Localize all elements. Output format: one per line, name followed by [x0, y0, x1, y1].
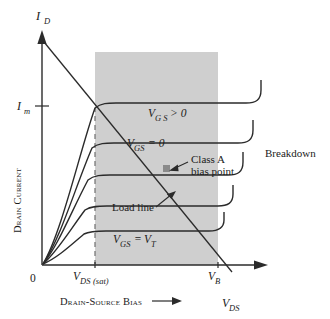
x-axis-subscript: DS	[228, 303, 240, 313]
mosfet-characteristics-figure: I D I m Drain Current 0 V DS (sat) V B D…	[0, 0, 330, 319]
x-axis-title-arrow	[152, 297, 182, 305]
vgs-gt-zero-subscript: G S	[155, 113, 168, 123]
vgs-zero-relation: = 0	[148, 137, 165, 149]
x-tick-2-subscript: B	[215, 276, 220, 286]
y-tick-subscript: m	[24, 106, 30, 116]
origin-label: 0	[30, 272, 36, 284]
class-a-bias-point-marker	[163, 165, 170, 172]
y-tick-symbol: I	[16, 99, 22, 113]
x-axis-arrowhead	[254, 260, 268, 269]
bias-point-line1: Class A	[191, 153, 225, 165]
y-axis-label: I D	[35, 9, 51, 26]
x-tick-1-paren: (sat)	[93, 276, 109, 286]
x-tick-label-vds-sat: V DS (sat)	[73, 270, 109, 286]
vgs-vt-relation: =	[134, 233, 142, 245]
x-tick-label-vb: V B	[208, 270, 220, 286]
x-axis-symbol-label: V DS	[222, 296, 240, 313]
annotation-breakdown: Breakdown	[265, 147, 316, 159]
annotation-class-a-bias-point: Class A bias point	[191, 153, 234, 177]
x-tick-1-subscript: DS	[79, 276, 91, 286]
vgs-zero-subscript: GS	[134, 143, 145, 153]
annotation-load-line: Load line	[112, 201, 154, 213]
y-axis-symbol: I	[35, 9, 41, 23]
vgs-gt-zero-relation: > 0	[170, 107, 187, 119]
bias-point-line2: bias point	[191, 165, 234, 177]
y-axis-subscript: D	[43, 16, 51, 26]
vgs-vt-subscript: GS	[120, 239, 131, 249]
x-axis-title: Drain-Source Bias	[60, 296, 142, 307]
y-axis-title: Drain Current	[12, 168, 23, 233]
y-tick-label-im: I m	[16, 99, 30, 116]
y-axis-arrowhead	[37, 30, 46, 44]
